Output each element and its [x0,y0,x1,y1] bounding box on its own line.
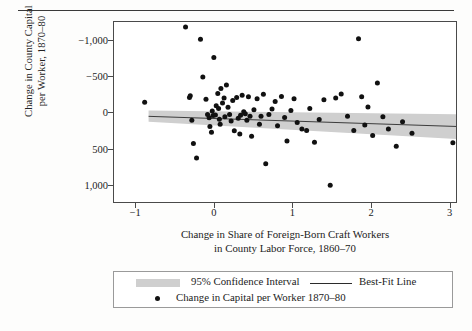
scatter-point [450,140,455,145]
scatter-point [255,96,260,101]
best-fit-line-swatch [310,283,352,284]
scatter-point [209,130,214,135]
data-points [142,25,455,188]
scatter-plot-figure: Change in County Capital per Worker, 187… [0,0,472,331]
x-axis-tick-mark [292,203,293,208]
scatter-point [292,96,297,101]
y-axis-tick-label: 500 [60,143,108,154]
scatter-point [288,108,293,113]
x-axis-tick-mark [135,203,136,208]
scatter-point [356,36,361,41]
scatter-point [339,91,344,96]
scatter-point [304,128,309,133]
scatter-point [243,111,248,116]
scatter-point [207,124,212,129]
x-axis-tick-label: 2 [351,207,391,218]
scatter-point [249,134,254,139]
scatter-point [409,131,414,136]
x-axis-tick-label: −1 [115,207,155,218]
x-axis-tick-mark [214,203,215,208]
scatter-point [198,37,203,42]
y-axis-tick-label: 0 [60,107,108,118]
legend-row-ci: 95% Confidence Interval Best-Fit Line [114,274,452,291]
scatter-point [295,120,300,125]
x-axis-title: Change in Share of Foreign-Born Craft Wo… [113,228,457,255]
legend-label-data-points: Change in Capital per Worker 1870–80 [176,291,346,303]
legend: 95% Confidence Interval Best-Fit Line Ch… [113,271,453,308]
x-axis-tick-label: 0 [194,207,234,218]
scatter-point [375,81,380,86]
top-rule-divider [18,10,454,11]
plot-canvas [114,22,456,202]
scatter-point [218,86,223,91]
scatter-point [187,95,192,100]
scatter-point [191,141,196,146]
scatter-point [370,133,375,138]
x-axis-tick-label: 1 [272,207,312,218]
scatter-point [312,140,317,145]
scatter-point [261,92,266,97]
legend-label-best-fit-line: Best-Fit Line [359,275,416,287]
scatter-point [237,132,242,137]
scatter-point [317,117,322,122]
scatter-point [203,97,208,102]
scatter-point [234,95,239,100]
scatter-point [226,105,231,110]
scatter-point [189,118,194,123]
scatter-point [217,117,222,122]
scatter-point [227,112,232,117]
scatter-point [394,144,399,149]
scatter-point [220,100,225,105]
legend-row-points: Change in Capital per Worker 1870–80 [114,290,452,307]
scatter-point [307,106,312,111]
scatter-point [386,126,391,131]
scatter-point [240,93,245,98]
y-axis-tick-label: −1,000 [60,35,108,46]
scatter-point [263,161,268,166]
scatter-point [222,114,227,119]
y-axis-tick-mark [108,40,113,41]
x-axis-tick-labels: −10123 [0,207,472,221]
y-axis-tick-mark [108,185,113,186]
scatter-point [251,107,256,112]
scatter-point [333,95,338,100]
scatter-point [279,94,284,99]
scatter-point [345,114,350,119]
scatter-point [244,118,249,123]
x-axis-tick-mark [371,203,372,208]
legend-label-confidence-interval: 95% Confidence Interval [191,275,300,287]
scatter-point [273,99,278,104]
scatter-point [284,138,289,143]
x-axis-tick-label: 3 [430,207,470,218]
scatter-point [266,112,271,117]
y-axis-tick-mark [108,112,113,113]
scatter-point [194,155,199,160]
y-axis-tick-label: −500 [60,71,108,82]
scatter-point [222,95,227,100]
y-axis-title: Change in County Capital per Worker, 187… [22,0,48,156]
scatter-point [257,122,262,127]
y-axis-tick-mark [108,149,113,150]
scatter-point [328,183,333,188]
scatter-point [232,128,237,133]
scatter-point [282,115,287,120]
scatter-point [200,74,205,79]
plot-area [113,21,457,203]
scatter-point [351,128,356,133]
y-axis-tick-mark [108,76,113,77]
y-axis-tick-label: 1,000 [60,179,108,190]
confidence-band-swatch [136,279,180,287]
scatter-point [365,104,370,109]
scatter-point [275,123,280,128]
scatter-point [224,82,229,87]
data-point-swatch [155,296,160,301]
scatter-point [213,112,218,117]
scatter-point [299,126,304,131]
y-axis-tick-labels: 1,0005000−500−1,000 [54,21,108,203]
scatter-point [321,97,326,102]
scatter-point [248,114,253,119]
scatter-point [259,114,264,119]
scatter-point [229,119,234,124]
scatter-point [210,108,215,113]
scatter-point [270,107,275,112]
